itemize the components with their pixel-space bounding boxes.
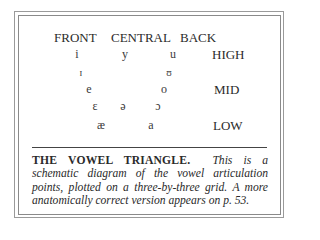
figure-caption: THE VOWEL TRIANGLE. This is a schematic … <box>32 154 268 208</box>
vowel-o: o <box>161 83 167 95</box>
vowel-ash: æ <box>97 119 105 131</box>
vowel-open-e: ɛ <box>92 100 97 112</box>
caption-divider <box>32 147 267 148</box>
row-label-low: LOW <box>213 119 243 132</box>
row-label-high: HIGH <box>212 48 245 61</box>
vowel-schwa: ə <box>120 100 125 112</box>
caption-title: THE VOWEL TRIANGLE. <box>32 154 190 167</box>
vowel-small-capital-i: ɪ <box>80 68 83 78</box>
column-header-front: FRONT <box>54 31 97 44</box>
vowel-a: a <box>148 119 153 131</box>
column-header-central: CENTRAL <box>111 31 171 44</box>
vowel-y: y <box>122 48 128 60</box>
vowel-u: u <box>170 48 176 60</box>
vowel-upsilon: ʊ <box>166 68 172 78</box>
vowel-e: e <box>86 83 91 95</box>
row-label-mid: MID <box>214 83 239 96</box>
column-header-back: BACK <box>180 31 216 44</box>
vowel-i: i <box>75 48 78 60</box>
vowel-open-o: ɔ <box>155 100 160 112</box>
